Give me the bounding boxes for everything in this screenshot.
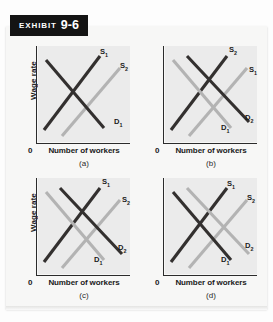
x-axis-label: Number of workers bbox=[36, 146, 132, 155]
curve-label-d1: D1 bbox=[221, 256, 229, 266]
exhibit-number: 9-6 bbox=[61, 19, 79, 32]
curve-label-subscript: 2 bbox=[234, 50, 237, 56]
curve-label-d1: D1 bbox=[94, 256, 102, 266]
curves-svg bbox=[165, 178, 257, 274]
curves-svg bbox=[165, 46, 257, 142]
page-edge-shadow bbox=[6, 306, 267, 310]
origin-label: 0 bbox=[155, 278, 159, 287]
plot-area: S2S1D1D2 bbox=[165, 46, 257, 142]
curve-label-d2: D2 bbox=[245, 242, 253, 252]
curve-label-subscript: 2 bbox=[127, 200, 130, 206]
exhibit-word: Exhibit bbox=[19, 22, 57, 30]
graph-panel-a: Wage rateS1S2D10Number of workers(a) bbox=[10, 42, 137, 174]
curve-label-subscript: 1 bbox=[232, 184, 235, 190]
curve-s2 bbox=[189, 200, 247, 268]
curve-label-subscript: 2 bbox=[252, 198, 255, 204]
exhibit-banner: Exhibit 9-6 bbox=[10, 15, 88, 36]
curve-label-s1: S1 bbox=[249, 66, 257, 76]
curve-label-s2: S2 bbox=[229, 46, 237, 56]
curve-label-subscript: 2 bbox=[250, 246, 253, 252]
x-axis-label: Number of workers bbox=[36, 278, 132, 287]
panel-grid: Wage rateS1S2D10Number of workers(a)S2S1… bbox=[10, 42, 264, 306]
x-axis-line bbox=[36, 275, 130, 276]
curve-s1 bbox=[189, 68, 247, 136]
curve-label-subscript: 2 bbox=[123, 248, 126, 254]
exhibit-figure: Exhibit 9-6 Wage rateS1S2D10Number of wo… bbox=[0, 0, 273, 322]
curve-label-s1: S1 bbox=[227, 180, 235, 190]
curve-label-subscript: 1 bbox=[226, 260, 229, 266]
curve-label-subscript: 1 bbox=[99, 260, 102, 266]
curve-s2 bbox=[62, 200, 120, 268]
curve-label-s2: S2 bbox=[122, 196, 130, 206]
curve-label-subscript: 1 bbox=[105, 52, 108, 58]
curve-label-subscript: 1 bbox=[226, 128, 229, 134]
curve-s2 bbox=[62, 68, 120, 136]
panel-caption-a: (a) bbox=[36, 159, 132, 168]
curve-label-subscript: 1 bbox=[119, 122, 122, 128]
curve-label-d2: D2 bbox=[245, 114, 253, 124]
x-axis-line bbox=[163, 275, 257, 276]
graph-panel-d: S1S2D1D20Number of workers(d) bbox=[137, 174, 264, 306]
plot-area: S1S2D1D2 bbox=[38, 178, 130, 274]
curve-label-d1: D1 bbox=[114, 118, 122, 128]
curve-label-subscript: 1 bbox=[107, 182, 110, 188]
curves-svg bbox=[38, 178, 130, 274]
x-axis-label: Number of workers bbox=[163, 146, 259, 155]
curve-label-s2: S2 bbox=[247, 194, 255, 204]
curve-label-d2: D2 bbox=[118, 244, 126, 254]
panel-caption-b: (b) bbox=[163, 159, 259, 168]
plot-area: S1S2D1D2 bbox=[165, 178, 257, 274]
panel-caption-c: (c) bbox=[36, 291, 132, 300]
panel-caption-d: (d) bbox=[163, 291, 259, 300]
curve-label-s1: S1 bbox=[100, 48, 108, 58]
origin-label: 0 bbox=[155, 146, 159, 155]
graph-panel-c: Wage rateS1S2D1D20Number of workers(c) bbox=[10, 174, 137, 306]
curve-label-subscript: 2 bbox=[250, 118, 253, 124]
curve-label-subscript: 1 bbox=[254, 70, 257, 76]
curve-label-subscript: 2 bbox=[125, 66, 128, 72]
curve-label-d1: D1 bbox=[221, 124, 229, 134]
x-axis-label: Number of workers bbox=[163, 278, 259, 287]
graph-panel-b: S2S1D1D20Number of workers(b) bbox=[137, 42, 264, 174]
x-axis-line bbox=[163, 143, 257, 144]
origin-label: 0 bbox=[28, 278, 32, 287]
x-axis-line bbox=[36, 143, 130, 144]
curve-label-s1: S1 bbox=[102, 178, 110, 188]
plot-area: S1S2D1 bbox=[38, 46, 130, 142]
curve-label-s2: S2 bbox=[120, 62, 128, 72]
origin-label: 0 bbox=[28, 146, 32, 155]
